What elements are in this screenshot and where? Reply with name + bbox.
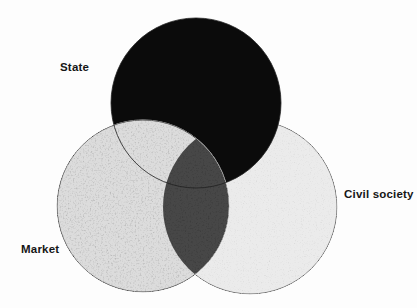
state-label: State (60, 61, 89, 73)
venn-svg: State Market Civil society (0, 0, 417, 308)
venn-diagram: State Market Civil society (0, 0, 417, 308)
civil-society-label: Civil society (344, 188, 414, 200)
market-label: Market (21, 243, 59, 255)
